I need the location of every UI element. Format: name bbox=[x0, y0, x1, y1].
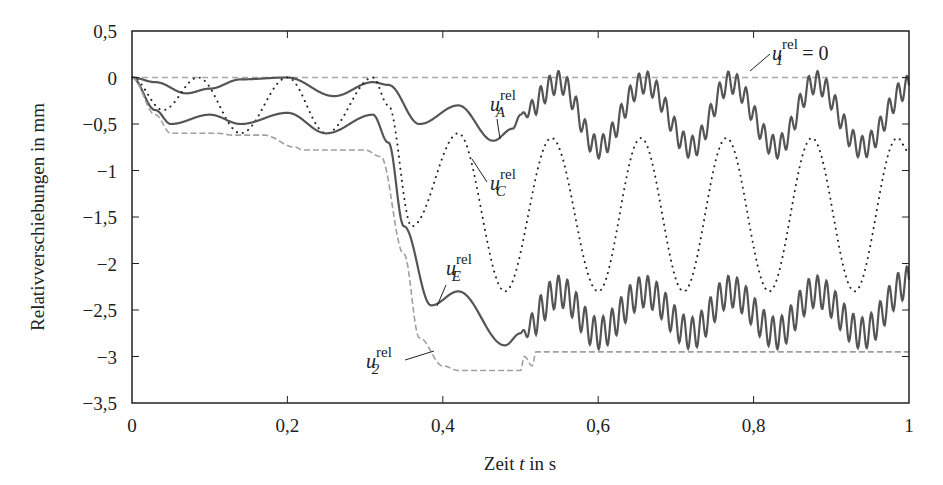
plot-frame bbox=[132, 31, 909, 403]
ticks-layer: 00,20,40,60,810,50−0,5−1−1,5−2−2,5−3−3,5 bbox=[83, 21, 914, 436]
y-axis-title: Relativverschiebungen in mm bbox=[27, 103, 48, 331]
x-tick-label: 1 bbox=[904, 415, 914, 436]
x-axis-title: Zeit t in s bbox=[484, 453, 556, 474]
series-uA_rel bbox=[132, 71, 909, 158]
svg-text:urelA: urelA bbox=[490, 87, 516, 120]
y-tick-label: 0 bbox=[108, 68, 118, 89]
svg-text:urel1 = 0: urel1 = 0 bbox=[772, 36, 829, 68]
y-tick-label: −0,5 bbox=[83, 114, 117, 135]
y-tick-label: −1 bbox=[97, 161, 117, 182]
x-tick-label: 0,2 bbox=[276, 415, 300, 436]
x-tick-label: 0 bbox=[127, 415, 137, 436]
annotation-uE: urelE bbox=[437, 251, 472, 306]
annotation-uA: urelA bbox=[490, 87, 516, 139]
y-tick-label: −3,5 bbox=[83, 393, 117, 414]
y-tick-label: −3 bbox=[97, 347, 117, 368]
svg-text:urel2: urel2 bbox=[366, 344, 392, 377]
chart: 00,20,40,60,810,50−0,5−1−1,5−2−2,5−3−3,5… bbox=[0, 0, 943, 485]
y-tick-label: 0,5 bbox=[93, 21, 117, 42]
series-uC_rel bbox=[132, 78, 909, 292]
series-layer bbox=[132, 71, 909, 370]
x-tick-label: 0,4 bbox=[431, 415, 455, 436]
x-tick-label: 0,6 bbox=[586, 415, 610, 436]
annotation-u1: urel1 = 0 bbox=[750, 36, 829, 71]
svg-text:urelC: urelC bbox=[490, 166, 516, 199]
y-tick-label: −2,5 bbox=[83, 300, 117, 321]
x-tick-label: 0,8 bbox=[742, 415, 766, 436]
y-tick-label: −2 bbox=[97, 254, 117, 275]
annotation-u2: urel2 bbox=[366, 344, 434, 377]
svg-text:urelE: urelE bbox=[446, 251, 472, 284]
y-tick-label: −1,5 bbox=[83, 207, 117, 228]
